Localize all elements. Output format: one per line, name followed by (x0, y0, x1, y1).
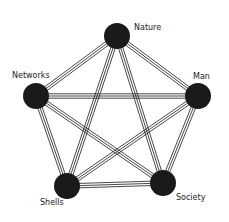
edge-networks-society (35, 94, 164, 185)
edge-shells-society (67, 181, 163, 188)
edge-nature-man (116, 34, 200, 98)
edges-group (34, 34, 200, 188)
node-shells (54, 173, 80, 199)
node-label-nature: Nature (134, 24, 161, 32)
edge-man-shells (66, 94, 199, 188)
edge-line (163, 96, 198, 183)
edge-line (37, 94, 164, 181)
nodes-group (23, 23, 211, 199)
edge-nature-networks (35, 34, 119, 98)
edge-line (117, 36, 163, 183)
node-society (150, 170, 176, 196)
node-label-man: Man (193, 73, 210, 81)
edge-networks-man (36, 94, 198, 98)
node-man (185, 83, 211, 109)
edge-line (38, 95, 69, 185)
edge-line (67, 36, 117, 186)
edge-line (116, 38, 197, 98)
edge-line (115, 37, 161, 184)
connection-diagram (0, 0, 229, 222)
node-networks (23, 83, 49, 109)
edge-line (66, 94, 197, 184)
edge-nature-society (115, 35, 165, 183)
edge-line (165, 97, 200, 184)
edge-line (36, 96, 163, 183)
edge-nature-shells (65, 35, 119, 186)
edge-line (67, 96, 198, 186)
node-label-shells: Shells (40, 199, 64, 207)
node-label-society: Society (176, 194, 205, 202)
node-nature (104, 23, 130, 49)
edge-line (35, 34, 116, 94)
edge-line (117, 36, 198, 96)
edge-line (65, 35, 115, 185)
node-label-networks: Networks (12, 72, 50, 80)
edge-line (69, 37, 119, 187)
edge-line (161, 95, 196, 182)
